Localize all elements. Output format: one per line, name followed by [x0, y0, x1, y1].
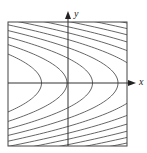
y-axis-arrow-icon: [65, 11, 71, 19]
parabola-curve: [0, 20, 144, 148]
parabola-curve: [0, 20, 147, 148]
x-axis-arrow-icon: [128, 80, 136, 86]
parabola-curves: [0, 20, 147, 148]
parabola-curve: [0, 20, 93, 148]
y-axis-label: y: [74, 9, 78, 19]
x-axis-label: x: [139, 77, 143, 87]
level-curves-plot: [0, 0, 147, 153]
